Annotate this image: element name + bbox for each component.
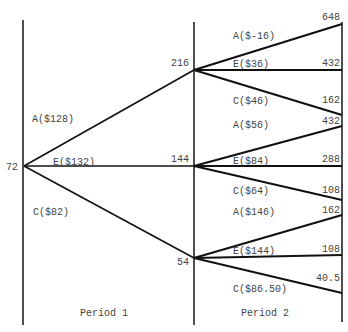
branch-label-216-c: C($46) <box>233 96 269 107</box>
tree-canvas: 72 216 144 54 A($128) E($132) C($82) A($… <box>0 0 348 332</box>
terminal-value-162-b: 162 <box>322 205 340 216</box>
terminal-value-288: 288 <box>322 154 340 165</box>
terminal-value-40-5: 40.5 <box>316 273 340 284</box>
branch-label-54-c: C($86.50) <box>233 284 287 295</box>
period-1-label: Period 1 <box>80 308 128 319</box>
terminal-value-648: 648 <box>322 12 340 23</box>
branch-label-p1-c: C($82) <box>33 207 69 218</box>
branch-label-216-e: E($36) <box>233 59 269 70</box>
branch-label-54-e: E($144) <box>233 246 275 257</box>
branch-label-144-e: E($84) <box>233 156 269 167</box>
terminal-value-432-a: 432 <box>322 58 340 69</box>
terminal-value-108-a: 108 <box>322 185 340 196</box>
decision-tree-diagram: 72 216 144 54 A($128) E($132) C($82) A($… <box>0 0 348 332</box>
branch-label-216-a: A($-16) <box>233 31 275 42</box>
node-value-144: 144 <box>171 154 189 165</box>
root-node-value: 72 <box>6 162 18 173</box>
branch-label-144-a: A($56) <box>233 120 269 131</box>
branch-label-p1-a: A($128) <box>32 114 74 125</box>
node-value-216: 216 <box>171 58 189 69</box>
branch-label-54-a: A($146) <box>233 207 275 218</box>
branch-label-p1-e: E($132) <box>53 157 95 168</box>
node-value-54: 54 <box>177 257 189 268</box>
terminal-value-432-b: 432 <box>322 116 340 127</box>
branch-label-144-c: C($64) <box>233 186 269 197</box>
terminal-value-108-b: 108 <box>322 244 340 255</box>
period-2-label: Period 2 <box>241 308 289 319</box>
edge-216-c <box>194 70 342 115</box>
terminal-value-162-a: 162 <box>322 95 340 106</box>
